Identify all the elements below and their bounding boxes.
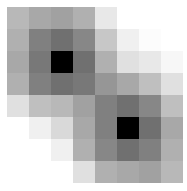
heatmap-cell (139, 29, 161, 51)
heatmap-cell (161, 29, 183, 51)
heatmap-cell (95, 139, 117, 161)
heatmap-cell (161, 95, 183, 117)
heatmap-cell (73, 29, 95, 51)
heatmap-cell (51, 7, 73, 29)
heatmap-cell (29, 29, 51, 51)
heatmap-cell (29, 161, 51, 183)
heatmap-cell (139, 117, 161, 139)
heatmap-cell (117, 139, 139, 161)
heatmap-cell (51, 139, 73, 161)
heatmap-cell (73, 139, 95, 161)
heatmap-cell (161, 139, 183, 161)
heatmap-cell (7, 95, 29, 117)
heatmap-cell (29, 139, 51, 161)
heatmap-cell (29, 73, 51, 95)
heatmap-cell (95, 29, 117, 51)
heatmap-cell (117, 117, 139, 139)
heatmap-cell (95, 51, 117, 73)
heatmap-cell (73, 117, 95, 139)
heatmap-cell (51, 161, 73, 183)
heatmap-cell (139, 73, 161, 95)
heatmap-cell (161, 73, 183, 95)
heatmap-cell (95, 73, 117, 95)
heatmap-cell (139, 161, 161, 183)
heatmap-cell (7, 73, 29, 95)
heatmap-cell (139, 51, 161, 73)
heatmap-cell (51, 51, 73, 73)
heatmap-cell (51, 29, 73, 51)
heatmap-cell (7, 161, 29, 183)
heatmap-cell (95, 7, 117, 29)
heatmap-cell (7, 139, 29, 161)
heatmap-cell (139, 139, 161, 161)
heatmap-cell (139, 7, 161, 29)
heatmap-cell (161, 161, 183, 183)
heatmap-cell (51, 73, 73, 95)
heatmap-cell (117, 95, 139, 117)
heatmap-cell (117, 29, 139, 51)
heatmap-cell (73, 73, 95, 95)
heatmap-cell (7, 51, 29, 73)
heatmap-cell (51, 117, 73, 139)
heatmap-cell (29, 51, 51, 73)
heatmap-cell (117, 7, 139, 29)
heatmap-cell (139, 95, 161, 117)
heatmap-cell (95, 161, 117, 183)
heatmap-cell (7, 7, 29, 29)
heatmap-cell (117, 73, 139, 95)
heatmap-cell (7, 29, 29, 51)
heatmap-cell (29, 117, 51, 139)
heatmap-cell (95, 95, 117, 117)
heatmap-cell (29, 7, 51, 29)
heatmap-cell (73, 161, 95, 183)
heatmap-cell (51, 95, 73, 117)
heatmap-grid (7, 7, 183, 183)
heatmap-cell (73, 51, 95, 73)
heatmap-cell (7, 117, 29, 139)
heatmap-cell (73, 7, 95, 29)
heatmap-cell (161, 117, 183, 139)
heatmap-cell (73, 95, 95, 117)
heatmap-cell (29, 95, 51, 117)
heatmap-cell (161, 7, 183, 29)
heatmap-cell (95, 117, 117, 139)
heatmap-cell (161, 51, 183, 73)
heatmap-cell (117, 161, 139, 183)
heatmap-cell (117, 51, 139, 73)
